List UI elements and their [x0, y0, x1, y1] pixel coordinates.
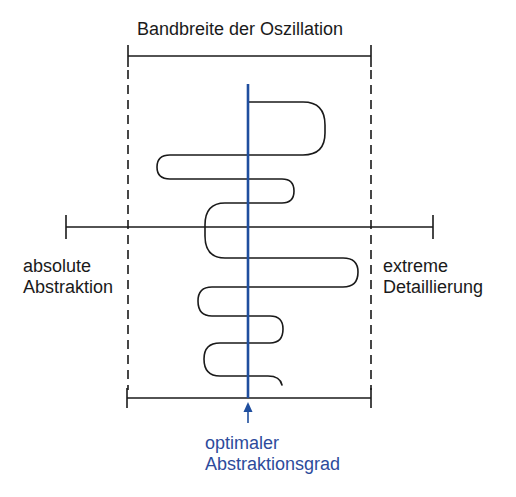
left-axis-label: absolute Abstraktion	[23, 256, 113, 298]
arrow-up-icon	[244, 402, 253, 423]
abstraction-axis	[66, 215, 433, 239]
optimum-label-line1: optimaler	[205, 433, 340, 454]
optimum-label: optimaler Abstraktionsgrad	[205, 433, 340, 475]
right-axis-label: extreme Detaillierung	[383, 256, 483, 298]
oscillation-diagram	[0, 0, 516, 497]
right-axis-label-line1: extreme	[383, 256, 483, 277]
oscillation-curve	[157, 102, 358, 385]
right-axis-label-line2: Detaillierung	[383, 277, 483, 298]
top-bandwidth-bracket	[128, 45, 371, 67]
optimum-label-line2: Abstraktionsgrad	[205, 454, 340, 475]
left-axis-label-line1: absolute	[23, 256, 113, 277]
top-bracket-label: Bandbreite der Oszillation	[137, 19, 343, 40]
left-axis-label-line2: Abstraktion	[23, 277, 113, 298]
bandwidth-boundary-lines	[128, 70, 371, 390]
